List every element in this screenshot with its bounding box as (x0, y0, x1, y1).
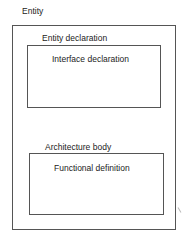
functional-definition-text: Functional definition (54, 164, 130, 173)
stray-mark (178, 207, 182, 213)
entity-title: Entity (22, 7, 43, 16)
interface-declaration-text: Interface declaration (52, 55, 129, 64)
architecture-body-label: Architecture body (45, 143, 111, 152)
entity-declaration-label: Entity declaration (42, 34, 107, 43)
